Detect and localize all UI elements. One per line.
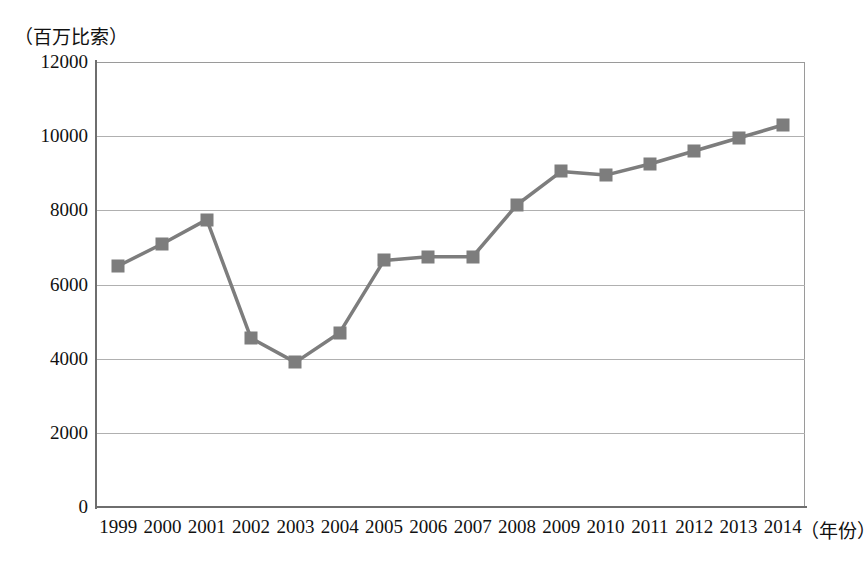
x-tick-label: 2002 bbox=[232, 516, 270, 538]
x-tick-label: 2010 bbox=[587, 516, 625, 538]
x-tick-label: 2006 bbox=[409, 516, 447, 538]
x-tick-label: 2005 bbox=[365, 516, 403, 538]
x-tick-label: 2009 bbox=[542, 516, 580, 538]
x-tick-label: 2007 bbox=[454, 516, 492, 538]
x-tick-label: 2013 bbox=[720, 516, 758, 538]
x-axis-title: （年份） bbox=[800, 516, 868, 543]
x-tick-label: 2012 bbox=[675, 516, 713, 538]
x-tick-label: 2011 bbox=[631, 516, 668, 538]
x-tick-label: 2014 bbox=[764, 516, 802, 538]
x-tick-label: 1999 bbox=[99, 516, 137, 538]
x-tick-label: 2008 bbox=[498, 516, 536, 538]
x-tick-label: 2004 bbox=[321, 516, 359, 538]
x-tick-label: 2003 bbox=[276, 516, 314, 538]
x-tick-label: 2001 bbox=[188, 516, 226, 538]
x-tick-label: 2000 bbox=[143, 516, 181, 538]
